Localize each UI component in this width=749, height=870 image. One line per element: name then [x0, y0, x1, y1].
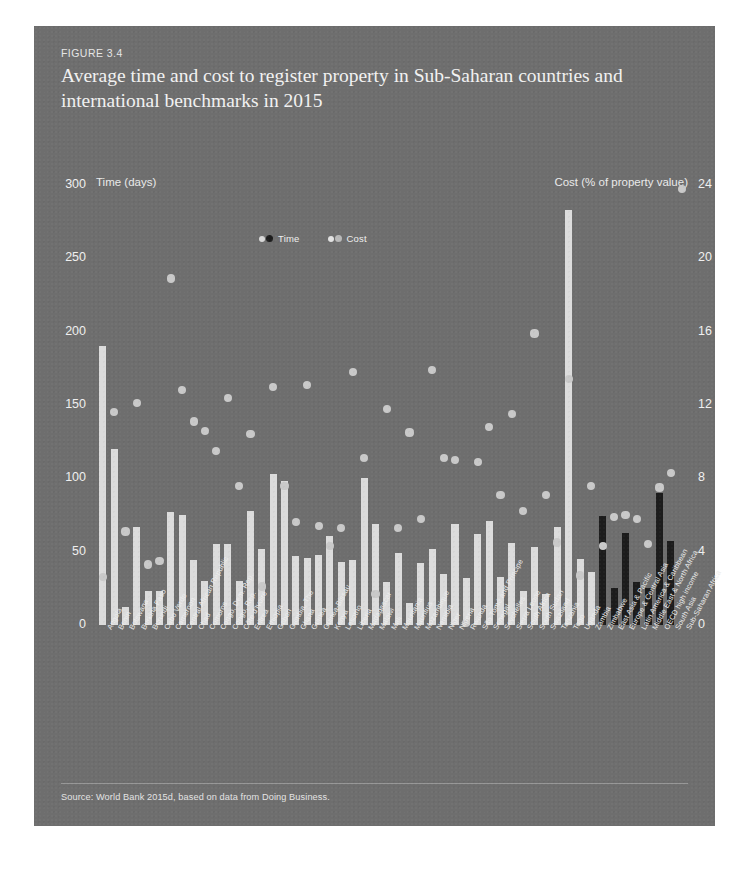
point-cost	[349, 368, 357, 376]
point-cost	[144, 560, 152, 568]
y-axis-tick-left: 300	[46, 177, 86, 191]
y-axis-tick-right: 24	[698, 177, 738, 191]
plot-area	[97, 185, 688, 625]
y-axis-tick-right: 4	[698, 544, 738, 558]
figure-number: FIGURE 3.4	[61, 47, 123, 59]
point-cost	[417, 515, 425, 523]
bar-time	[281, 481, 288, 625]
point-cost	[246, 430, 254, 438]
point-cost	[678, 185, 686, 193]
point-cost	[360, 454, 368, 462]
point-cost	[383, 405, 391, 413]
y-axis-tick-left: 0	[46, 617, 86, 631]
point-cost	[610, 513, 618, 521]
bar-time	[565, 210, 572, 625]
point-cost	[667, 469, 675, 477]
point-cost	[190, 417, 198, 425]
point-cost	[269, 383, 277, 391]
point-cost	[292, 518, 300, 526]
x-axis-labels: AngolaBeninBotswanaBurkina FasoBurundiCa…	[97, 627, 688, 777]
point-cost	[167, 274, 175, 282]
source-divider	[61, 783, 688, 784]
point-cost	[542, 491, 550, 499]
point-cost	[474, 458, 482, 466]
point-cost	[133, 399, 141, 407]
y-axis-tick-left: 200	[46, 324, 86, 338]
point-cost	[212, 447, 220, 455]
y-axis-tick-left: 50	[46, 544, 86, 558]
point-cost	[599, 542, 607, 550]
point-cost	[530, 329, 538, 337]
point-cost	[519, 507, 527, 515]
point-cost	[121, 527, 129, 535]
point-cost	[235, 482, 243, 490]
point-cost	[485, 423, 493, 431]
point-cost	[315, 522, 323, 530]
point-cost	[451, 456, 459, 464]
point-cost	[280, 482, 288, 490]
point-cost	[440, 454, 448, 462]
point-cost	[428, 366, 436, 374]
y-axis-tick-right: 8	[698, 470, 738, 484]
figure-page: FIGURE 3.4 Average time and cost to regi…	[0, 0, 749, 870]
point-cost	[508, 410, 516, 418]
point-cost	[303, 381, 311, 389]
y-axis-tick-left: 150	[46, 397, 86, 411]
figure-title: Average time and cost to register proper…	[61, 63, 681, 113]
y-axis-tick-right: 16	[698, 324, 738, 338]
source-note: Source: World Bank 2015d, based on data …	[61, 792, 330, 802]
y-axis-tick-right: 12	[698, 397, 738, 411]
y-axis-tick-right: 0	[698, 617, 738, 631]
point-cost	[621, 511, 629, 519]
point-cost	[337, 524, 345, 532]
point-cost	[644, 540, 652, 548]
point-cost	[371, 590, 379, 598]
y-axis-tick-right: 20	[698, 250, 738, 264]
y-axis-tick-left: 100	[46, 470, 86, 484]
point-cost	[633, 515, 641, 523]
y-axis-tick-left: 250	[46, 250, 86, 264]
point-cost	[224, 394, 232, 402]
bar-time	[361, 478, 368, 625]
point-cost	[587, 482, 595, 490]
figure-panel: FIGURE 3.4 Average time and cost to regi…	[34, 26, 715, 826]
bar-time	[111, 449, 118, 625]
point-cost	[155, 557, 163, 565]
point-cost	[576, 571, 584, 579]
point-cost	[178, 386, 186, 394]
point-cost	[394, 524, 402, 532]
point-cost	[405, 428, 413, 436]
point-cost	[553, 538, 561, 546]
point-cost	[201, 427, 209, 435]
bar-time	[99, 346, 106, 625]
point-cost	[496, 491, 504, 499]
point-cost	[655, 483, 663, 491]
point-cost	[110, 408, 118, 416]
